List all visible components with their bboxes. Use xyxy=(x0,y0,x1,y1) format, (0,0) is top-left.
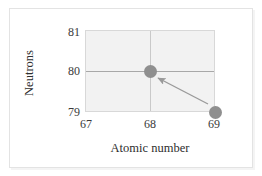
x-tick-label-68: 68 xyxy=(135,118,165,130)
plot-area xyxy=(85,30,215,112)
y-tick-label-81: 81 xyxy=(56,26,80,38)
scatter-plot-figure: 81 80 79 67 68 69 Atomic number Neutrons xyxy=(0,0,262,176)
y-axis-title: Neutrons xyxy=(22,0,36,38)
data-point-68-80 xyxy=(144,65,157,78)
x-axis-title: Atomic number xyxy=(60,141,240,156)
y-tick-label-79: 79 xyxy=(56,106,80,118)
y-tick-label-80: 80 xyxy=(56,65,80,77)
y-axis-title-text: Neutrons xyxy=(22,38,37,108)
x-tick-label-67: 67 xyxy=(71,118,101,130)
x-tick-label-69: 69 xyxy=(199,118,229,130)
